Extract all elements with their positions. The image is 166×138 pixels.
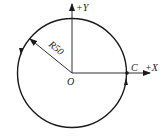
- point-c-dot: [125, 71, 129, 75]
- direction-arrow-right-icon: [124, 78, 128, 85]
- center-label: O: [67, 76, 74, 87]
- x-axis-label: +X: [145, 62, 159, 73]
- circle-diagram: +Y +X O C R50: [0, 0, 166, 138]
- y-axis-label: +Y: [76, 2, 90, 13]
- point-label: C: [131, 62, 138, 73]
